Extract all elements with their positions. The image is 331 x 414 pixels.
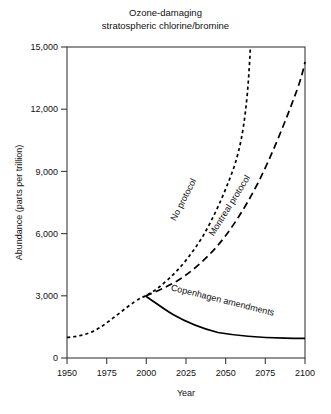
x-axis-tick-labels: 1950 1975 2000 2025 2050 2075 2100 xyxy=(57,368,315,378)
x-tick-label-1975: 1975 xyxy=(97,368,117,378)
chart-plot-area: 0 3,000 6,000 9,000 12,000 15,000 1950 1… xyxy=(0,0,331,414)
series-label-copenhagen-amendments: Copenhagen amendments xyxy=(170,282,276,317)
x-tick-label-2025: 2025 xyxy=(176,368,196,378)
x-tick-label-2075: 2075 xyxy=(255,368,275,378)
y-axis-ticks xyxy=(61,47,67,358)
x-tick-label-2100: 2100 xyxy=(295,368,315,378)
x-axis-ticks xyxy=(67,358,305,364)
y-tick-label-9000: 9,000 xyxy=(35,167,58,177)
x-tick-label-2050: 2050 xyxy=(216,368,236,378)
y-axis-tick-labels: 0 3,000 6,000 9,000 12,000 15,000 xyxy=(30,42,58,363)
y-tick-label-0: 0 xyxy=(53,353,58,363)
y-tick-label-15000: 15,000 xyxy=(30,42,58,52)
series-montreal-protocol-line xyxy=(146,62,306,296)
chart-figure: Ozone-damaging stratospheric chlorine/br… xyxy=(0,0,331,414)
series-no-protocol-line xyxy=(67,47,250,337)
y-tick-label-6000: 6,000 xyxy=(35,229,58,239)
series-label-no-protocol: No protocol xyxy=(168,177,198,223)
x-tick-label-2000: 2000 xyxy=(136,368,156,378)
y-tick-label-12000: 12,000 xyxy=(30,104,58,114)
x-axis-title: Year xyxy=(177,388,195,398)
x-tick-label-1950: 1950 xyxy=(57,368,77,378)
y-tick-label-3000: 3,000 xyxy=(35,291,58,301)
y-axis-title: Abundance (parts per trillion) xyxy=(14,145,24,261)
